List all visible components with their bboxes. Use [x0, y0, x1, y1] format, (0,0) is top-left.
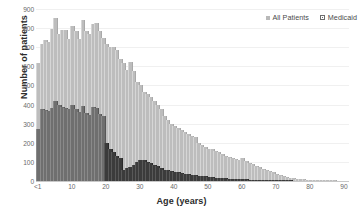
y-tick-label: 500 — [14, 82, 34, 89]
x-tick-label: 10 — [68, 183, 75, 190]
x-tick-label: 90 — [340, 183, 347, 190]
bar-series-medicaid — [36, 9, 349, 181]
x-axis-title: Age (years) — [0, 196, 363, 206]
x-tick-label: 20 — [102, 183, 109, 190]
y-tick-label: 100 — [14, 158, 34, 165]
x-axis-line — [36, 181, 349, 182]
plot-area — [36, 9, 349, 181]
x-tick-label: 60 — [238, 183, 245, 190]
chart-figure: All Patients Medicaid Number of patients… — [0, 0, 363, 216]
y-tick-label: 700 — [14, 44, 34, 51]
x-tick-label: 40 — [170, 183, 177, 190]
y-tick-label: 300 — [14, 120, 34, 127]
y-tick-label: 900 — [14, 6, 34, 13]
x-tick-label: 50 — [204, 183, 211, 190]
y-tick-label: 400 — [14, 101, 34, 108]
x-axis-ticks: <1102030405060708090 — [0, 183, 363, 195]
y-tick-label: 600 — [14, 63, 34, 70]
y-tick-label: 800 — [14, 25, 34, 32]
y-tick-label: 200 — [14, 139, 34, 146]
x-tick-label: <1 — [34, 183, 41, 190]
x-tick-label: 70 — [272, 183, 279, 190]
x-tick-label: 30 — [136, 183, 143, 190]
x-tick-label: 80 — [306, 183, 313, 190]
